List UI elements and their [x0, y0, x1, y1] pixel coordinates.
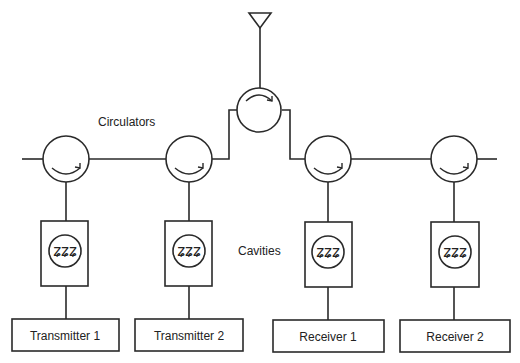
- cavity-1: ʑʑʑ: [41, 221, 88, 286]
- transmitter-2-label: Transmitter 2: [154, 329, 225, 343]
- circulator-antenna: [237, 88, 281, 132]
- duplexer-diagram: ʑʑʑ ʑʑʑ ʑʑʑ ʑʑʑ Circulators Cavities Tra…: [0, 0, 520, 363]
- receiver-2-block: Receiver 2: [400, 320, 510, 352]
- transmitter-1-label: Transmitter 1: [30, 329, 101, 343]
- transmitter-1-block: Transmitter 1: [12, 319, 119, 351]
- cavity-coil-icon: ʑʑʑ: [53, 242, 77, 260]
- cavity-2: ʑʑʑ: [165, 221, 212, 286]
- receiver-1-block: Receiver 1: [273, 320, 384, 352]
- circulator-4: [431, 136, 477, 182]
- cavities-label: Cavities: [238, 244, 281, 258]
- circulator-3: [305, 136, 351, 182]
- circulator-1: [43, 136, 89, 182]
- transmitter-2-block: Transmitter 2: [135, 319, 243, 351]
- cavity-4: ʑʑʑ: [431, 222, 479, 287]
- circulators-label: Circulators: [98, 115, 155, 129]
- cavity-coil-icon: ʑʑʑ: [177, 242, 201, 260]
- cavity-coil-icon: ʑʑʑ: [443, 243, 467, 261]
- receiver-1-label: Receiver 1: [299, 330, 357, 344]
- cavity-coil-icon: ʑʑʑ: [316, 243, 340, 261]
- receiver-2-label: Receiver 2: [426, 330, 484, 344]
- antenna-icon: [249, 13, 271, 88]
- circulator-2: [166, 136, 212, 182]
- cavity-3: ʑʑʑ: [305, 222, 352, 287]
